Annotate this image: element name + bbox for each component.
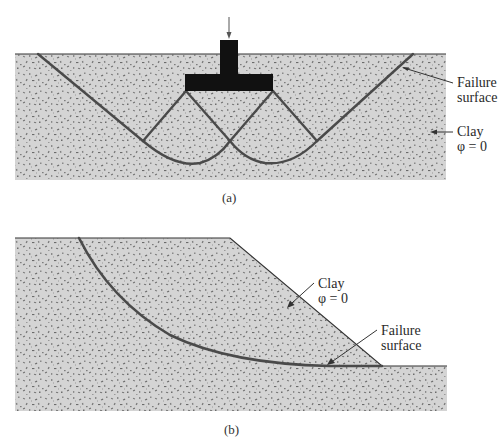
clay-label-b: Clay φ = 0 <box>318 276 348 306</box>
phi-label-line2: φ = 0 <box>457 139 487 154</box>
figure-a <box>15 17 453 180</box>
clay-label-line1: Clay <box>457 124 487 139</box>
failure-surface-label-a: Failure surface <box>457 75 497 105</box>
failure-surfaces-figure <box>0 0 499 442</box>
failure-label-line2: surface <box>457 90 497 105</box>
failure-label-line1: Failure <box>381 323 421 338</box>
failure-label-line1: Failure <box>457 75 497 90</box>
failure-surface-label-b: Failure surface <box>381 323 421 353</box>
caption-b: (b) <box>224 422 239 438</box>
clay-label-a: Clay φ = 0 <box>457 124 487 154</box>
footing-base <box>185 74 273 91</box>
footing-stem <box>220 40 238 76</box>
failure-label-line2: surface <box>381 338 421 353</box>
clay-label-line1: Clay <box>318 276 348 291</box>
caption-a: (a) <box>222 190 236 206</box>
phi-label-line2: φ = 0 <box>318 291 348 306</box>
load-arrow-icon <box>227 17 232 39</box>
